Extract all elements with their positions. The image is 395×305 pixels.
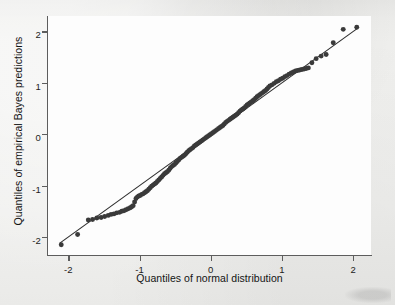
data-point bbox=[309, 60, 314, 65]
data-point bbox=[86, 218, 91, 223]
data-point bbox=[59, 242, 64, 247]
y-axis-title: Quantiles of empirical Bayes predictions bbox=[12, 6, 24, 256]
qq-plot-figure: -2-1012-2-1012 Quantiles of normal distr… bbox=[0, 0, 395, 305]
plot-data-layer bbox=[0, 0, 395, 305]
data-point bbox=[94, 216, 99, 221]
data-point bbox=[75, 232, 80, 237]
data-point bbox=[331, 40, 336, 45]
data-point bbox=[341, 27, 346, 32]
x-axis-title: Quantiles of normal distribution bbox=[48, 272, 371, 284]
data-points-group bbox=[59, 25, 359, 247]
data-point bbox=[354, 25, 359, 30]
data-point bbox=[314, 56, 319, 61]
data-point bbox=[306, 65, 311, 70]
data-point bbox=[90, 217, 95, 222]
data-point bbox=[319, 54, 324, 59]
data-point bbox=[324, 52, 329, 57]
